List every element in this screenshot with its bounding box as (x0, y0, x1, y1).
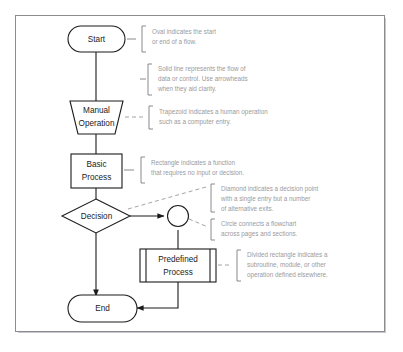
bracket-predefined (237, 250, 241, 281)
note-circle-line1: Circle connects a flowchart (221, 220, 296, 227)
note-trapezoid-line1: Trapezoid indicates a human operation (159, 108, 268, 116)
connector-circle-shape (168, 206, 189, 227)
annotation-note-rectangle: Rectangle indicates a function that requ… (151, 159, 244, 177)
leader-circle (189, 219, 208, 227)
predefined-label-line1: Predefined (158, 255, 198, 264)
note-line-line2: data or control. Use arrowheads (158, 75, 248, 82)
annotation-note-diamond: Diamond indicates a decision point with … (220, 185, 319, 212)
annotation-note-oval: Oval indicates the start or end of a flo… (152, 28, 216, 45)
manual-label-line1: Manual (83, 106, 110, 115)
bracket-rectangle (141, 157, 145, 183)
node-end[interactable]: End (68, 295, 137, 322)
node-connector[interactable] (168, 206, 189, 227)
annotation-note-predefined: Divided rectangle indicates a subroutine… (247, 251, 328, 279)
bracket-line (148, 64, 152, 95)
process-label-line1: Basic (86, 160, 106, 169)
note-trapezoid-line2: such as a computer entry. (159, 118, 231, 126)
decision-label: Decision (81, 212, 113, 221)
predefined-label-line2: Process (163, 268, 193, 277)
leader-diamond (128, 187, 206, 209)
bracket-trapezoid (149, 106, 153, 129)
node-basic-process[interactable]: Basic Process (71, 154, 122, 188)
node-manual-operation[interactable]: Manual Operation (70, 101, 123, 134)
note-line-line1: Solid line represents the flow of (158, 65, 246, 73)
end-label: End (95, 304, 110, 313)
note-circle-line2: across pages and sections. (221, 230, 298, 238)
manual-label-line2: Operation (79, 119, 115, 128)
bracket-oval (142, 26, 146, 52)
note-rectangle-line1: Rectangle indicates a function (151, 159, 236, 167)
note-diamond-line1: Diamond indicates a decision point (221, 185, 319, 193)
flowchart-page: Start Manual Operation Basic Process Dec… (0, 0, 403, 352)
note-oval-line1: Oval indicates the start (152, 28, 216, 35)
node-decision[interactable]: Decision (62, 199, 130, 233)
note-predefined-line1: Divided rectangle indicates a (247, 251, 328, 259)
bracket-circle (211, 219, 215, 240)
note-oval-line2: or end of a flow. (152, 38, 197, 45)
note-line-line3: when they aid clarity. (157, 85, 217, 93)
node-predefined-process[interactable]: Predefined Process (140, 249, 216, 282)
note-predefined-line2: subroutine, module, or other (247, 261, 326, 268)
annotation-note-line: Solid line represents the flow of data o… (157, 65, 248, 93)
annotation-note-trapezoid: Trapezoid indicates a human operation su… (159, 108, 268, 126)
flowchart-diagram: Start Manual Operation Basic Process Dec… (0, 0, 403, 352)
bracket-diamond (211, 184, 215, 212)
note-rectangle-line2: that requires no input or decision. (151, 169, 244, 177)
note-predefined-line3: operation defined elsewhere. (247, 271, 328, 279)
process-label-line2: Process (82, 173, 112, 182)
start-label: Start (88, 35, 106, 44)
note-diamond-line2: with a single entry but a number (220, 195, 310, 203)
annotation-note-circle: Circle connects a flowchart across pages… (221, 220, 298, 238)
line-predefined-to-end (137, 282, 178, 308)
note-diamond-line3: of alternative exits. (221, 205, 274, 212)
node-start[interactable]: Start (68, 26, 125, 52)
